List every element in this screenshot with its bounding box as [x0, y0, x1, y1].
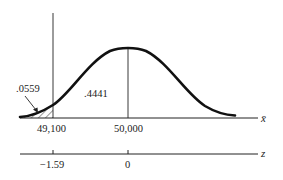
xbar-tick-mean: 50,000	[114, 123, 143, 134]
left-tail-area-label: .0559	[16, 83, 40, 94]
z-tick-cutoff: −1.59	[40, 159, 64, 170]
normal-curve	[20, 48, 235, 117]
middle-area-label: .4441	[84, 88, 108, 99]
z-axis-label: z	[260, 147, 266, 159]
xbar-axis-label: x̄	[260, 112, 266, 124]
tail-pointer-arrow	[25, 96, 38, 113]
xbar-tick-cutoff: 49,100	[37, 123, 66, 134]
z-tick-mean: 0	[125, 159, 130, 170]
normal-curve-diagram: x̄ .0559 .4441 49,100 50,000 z −1.59 0	[0, 0, 283, 180]
